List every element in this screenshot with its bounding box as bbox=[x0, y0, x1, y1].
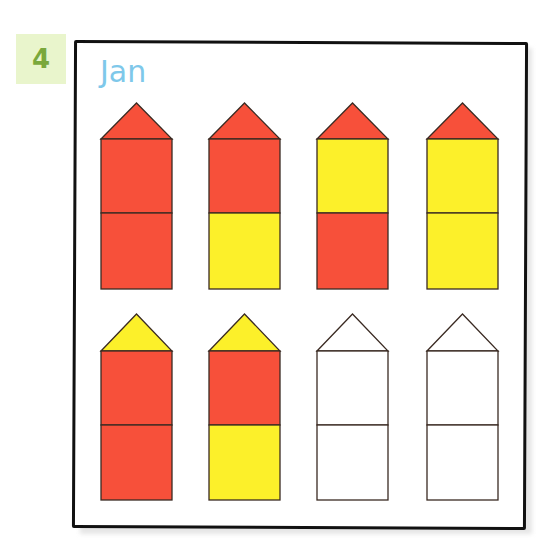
house-top-floor bbox=[317, 139, 388, 213]
house-top-floor[interactable] bbox=[317, 351, 388, 425]
house-bottom-floor[interactable] bbox=[317, 425, 388, 500]
house-top-floor bbox=[101, 139, 172, 213]
house-bottom-floor bbox=[209, 425, 280, 500]
house-roof bbox=[427, 103, 498, 139]
house-roof bbox=[101, 103, 172, 139]
house-bottom-floor[interactable] bbox=[427, 425, 498, 500]
house-4 bbox=[427, 103, 498, 289]
house-5 bbox=[101, 314, 172, 500]
house-bottom-floor bbox=[209, 213, 280, 289]
house-1 bbox=[101, 103, 172, 289]
house-roof bbox=[101, 314, 172, 351]
house-top-floor bbox=[101, 351, 172, 425]
house-roof[interactable] bbox=[427, 314, 498, 351]
house-roof bbox=[317, 103, 388, 139]
house-bottom-floor bbox=[101, 213, 172, 289]
house-top-floor[interactable] bbox=[427, 351, 498, 425]
house-3 bbox=[317, 103, 388, 289]
house-8[interactable] bbox=[427, 314, 498, 500]
house-top-floor bbox=[209, 351, 280, 425]
house-roof bbox=[209, 314, 280, 351]
houses-grid bbox=[0, 0, 559, 559]
house-top-floor bbox=[209, 139, 280, 213]
house-roof[interactable] bbox=[317, 314, 388, 351]
house-bottom-floor bbox=[427, 213, 498, 289]
house-bottom-floor bbox=[101, 425, 172, 500]
house-2 bbox=[209, 103, 280, 289]
house-6 bbox=[209, 314, 280, 500]
house-bottom-floor bbox=[317, 213, 388, 289]
house-roof bbox=[209, 103, 280, 139]
house-7[interactable] bbox=[317, 314, 388, 500]
house-top-floor bbox=[427, 139, 498, 213]
